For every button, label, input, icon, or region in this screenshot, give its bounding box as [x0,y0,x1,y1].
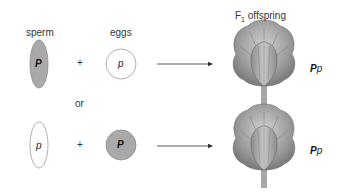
flower-icon [233,20,295,104]
genotype-recessive-allele: p [317,63,323,74]
genotype-dominant-allele: P [310,145,317,156]
eggs-label: eggs [110,27,132,38]
sperm-allele-1: P [35,58,42,69]
sperm-label: sperm [26,27,54,38]
or-label: or [75,98,84,109]
f1-offspring-label: F1 offspring [235,10,286,23]
plus-sign-1: + [77,57,83,68]
plus-sign-2: + [77,139,83,150]
sperm-allele-2: p [36,140,42,151]
flower-icon [233,104,295,188]
offspring-genotype-2: Pp [310,140,322,158]
f1-suffix: offspring [245,10,286,21]
genotype-dominant-allele: P [310,63,317,74]
offspring-genotype-1: Pp [310,58,322,76]
genotype-recessive-allele: p [317,145,323,156]
egg-allele-1: p [118,58,124,69]
egg-allele-2: P [117,139,124,150]
